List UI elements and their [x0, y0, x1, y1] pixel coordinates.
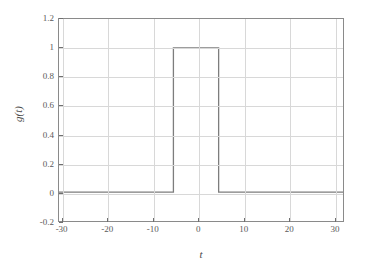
gridline-horizontal: [59, 165, 343, 166]
y-tick-label: 1.2: [43, 13, 54, 23]
data-series-line: [59, 48, 343, 192]
y-tick-mark: [59, 222, 63, 223]
y-tick-label: 0.8: [43, 71, 54, 81]
y-tick-mark: [59, 193, 63, 194]
y-tick-mark: [59, 135, 63, 136]
y-tick-mark: [59, 164, 63, 165]
data-line-svg: [59, 19, 343, 221]
y-tick-label: -0.2: [40, 217, 54, 227]
x-tick-label: 10: [239, 224, 248, 234]
x-tick-mark: [198, 218, 199, 222]
x-tick-label: -30: [56, 224, 68, 234]
y-tick-mark: [59, 76, 63, 77]
x-tick-mark: [153, 218, 154, 222]
x-tick-mark: [107, 218, 108, 222]
gridline-horizontal: [59, 136, 343, 137]
y-tick-label: 0.4: [43, 130, 54, 140]
gridline-vertical: [245, 19, 246, 221]
gridline-vertical: [199, 19, 200, 221]
x-tick-mark: [244, 218, 245, 222]
y-tick-mark: [59, 105, 63, 106]
gridline-horizontal: [59, 77, 343, 78]
y-tick-mark: [59, 47, 63, 48]
y-tick-label: 0.2: [43, 159, 54, 169]
x-tick-label: 0: [196, 224, 201, 234]
x-axis-label: t: [58, 248, 344, 260]
chart-figure: -30-20-100102030 -0.200.20.40.60.811.2 t…: [0, 0, 365, 279]
x-tick-label: 20: [285, 224, 294, 234]
x-tick-mark: [335, 218, 336, 222]
gridline-vertical: [290, 19, 291, 221]
x-tick-label: 30: [330, 224, 339, 234]
y-axis-label: g(t): [12, 84, 24, 144]
gridline-vertical: [336, 19, 337, 221]
gridline-horizontal: [59, 194, 343, 195]
x-tick-label: -10: [147, 224, 159, 234]
x-tick-mark: [289, 218, 290, 222]
y-tick-label: 0: [50, 188, 55, 198]
gridline-horizontal: [59, 106, 343, 107]
gridline-vertical: [154, 19, 155, 221]
x-tick-label: -20: [101, 224, 113, 234]
gridline-horizontal: [59, 48, 343, 49]
gridline-vertical: [63, 19, 64, 221]
y-tick-label: 0.6: [43, 100, 54, 110]
y-tick-mark: [59, 18, 63, 19]
y-tick-label: 1: [50, 42, 55, 52]
gridline-vertical: [108, 19, 109, 221]
plot-area: [58, 18, 344, 222]
